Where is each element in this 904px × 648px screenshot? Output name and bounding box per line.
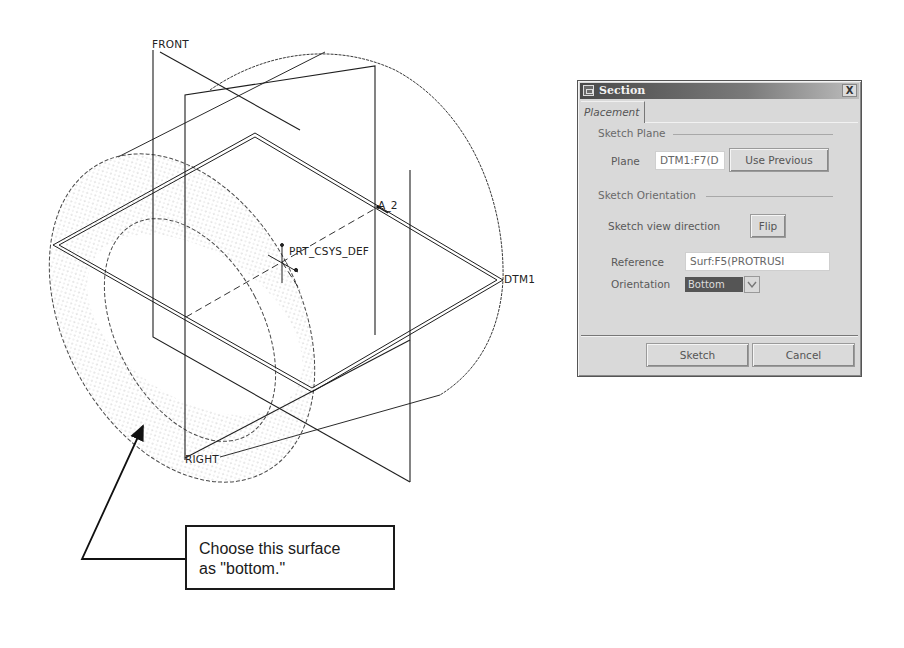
orientation-label: Orientation	[611, 278, 670, 290]
section-dialog: Section X Placement Sketch Plane Plane D…	[577, 80, 862, 377]
reference-field[interactable]: Surf:F5(PROTRUSI	[685, 252, 830, 271]
plane-label: Plane	[611, 155, 640, 167]
sketch-orientation-group-label: Sketch Orientation	[598, 189, 696, 201]
view-direction-label: Sketch view direction	[608, 220, 720, 232]
tab-panel-border	[645, 122, 858, 123]
divider	[706, 196, 833, 197]
plane-field[interactable]: DTM1:F7(D	[655, 151, 725, 170]
chevron-down-icon	[745, 277, 759, 292]
front-plane-label: FRONT	[152, 38, 189, 50]
axis-label: A_2	[378, 199, 398, 211]
close-button[interactable]: X	[842, 84, 857, 97]
flip-button[interactable]: Flip	[750, 214, 786, 238]
tab-placement[interactable]: Placement	[581, 101, 645, 123]
right-plane-label: RIGHT	[185, 453, 219, 465]
cancel-button[interactable]: Cancel	[752, 343, 855, 367]
instruction-callout: Choose this surface as "bottom."	[185, 525, 395, 590]
footer-separator	[581, 335, 858, 336]
callout-line-2: as "bottom."	[199, 559, 393, 579]
csys-label: PRT_CSYS_DEF	[289, 245, 369, 257]
orientation-select[interactable]: Bottom	[685, 277, 743, 292]
callout-line-1: Choose this surface	[199, 539, 393, 559]
dtm1-plane-label: DTM1	[504, 273, 535, 285]
dialog-title: Section	[599, 84, 645, 97]
sketch-plane-group-label: Sketch Plane	[598, 127, 666, 139]
sketch-button[interactable]: Sketch	[646, 343, 749, 367]
window-icon	[583, 85, 594, 96]
dialog-titlebar[interactable]: Section X	[580, 83, 859, 99]
reference-label: Reference	[611, 256, 664, 268]
use-previous-button[interactable]: Use Previous	[729, 148, 829, 172]
orientation-dropdown-button[interactable]	[744, 276, 760, 293]
divider	[673, 134, 833, 135]
